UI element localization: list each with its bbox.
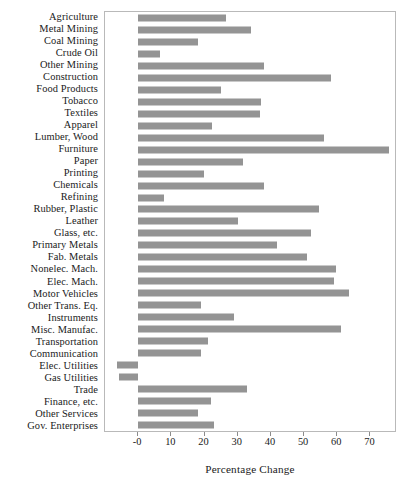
category-label: Furniture — [0, 143, 101, 155]
bar-row — [105, 359, 395, 371]
bar-row — [105, 48, 395, 60]
bar[interactable] — [138, 194, 164, 201]
category-label: Elec. Utilities — [0, 360, 101, 372]
category-label: Trade — [0, 384, 101, 396]
bar-row — [105, 96, 395, 108]
bar-row — [105, 192, 395, 204]
bar-row — [105, 299, 395, 311]
plot-area — [104, 11, 396, 432]
category-label: Nonelec. Mach. — [0, 264, 101, 276]
bar[interactable] — [138, 98, 261, 105]
chart-page: AgricultureMetal MiningCoal MiningCrude … — [0, 0, 408, 486]
bar[interactable] — [138, 170, 204, 177]
category-label: Fab. Metals — [0, 252, 101, 264]
bar-row — [105, 132, 395, 144]
bar-row — [105, 144, 395, 156]
bar[interactable] — [138, 74, 330, 81]
category-label: Agriculture — [0, 11, 101, 23]
bar[interactable] — [117, 362, 138, 369]
bar-row — [105, 36, 395, 48]
bar-row — [105, 156, 395, 168]
bar-row — [105, 407, 395, 419]
category-label: Refining — [0, 191, 101, 203]
bar[interactable] — [138, 218, 238, 225]
category-label: Rubber, Plastic — [0, 204, 101, 216]
bar[interactable] — [138, 266, 336, 273]
bar[interactable] — [138, 122, 212, 129]
bar-row — [105, 204, 395, 216]
bar-row — [105, 24, 395, 36]
category-label: Other Services — [0, 408, 101, 420]
bar-row — [105, 180, 395, 192]
category-label: Other Trans. Eq. — [0, 300, 101, 312]
bar[interactable] — [138, 158, 243, 165]
x-axis-tick-label: -0 — [133, 437, 142, 447]
bar[interactable] — [138, 26, 251, 33]
x-axis-tick-label: 60 — [331, 437, 341, 447]
bar[interactable] — [119, 374, 138, 381]
bar[interactable] — [138, 350, 201, 357]
bar[interactable] — [138, 242, 276, 249]
bar[interactable] — [138, 50, 160, 57]
x-axis-tick-label: 10 — [165, 437, 175, 447]
bar[interactable] — [138, 230, 311, 237]
bar-row — [105, 335, 395, 347]
bar-row — [105, 72, 395, 84]
bar-row — [105, 239, 395, 251]
category-label: Communication — [0, 348, 101, 360]
category-label: Tobacco — [0, 95, 101, 107]
bar-row — [105, 323, 395, 335]
category-label: Gas Utilities — [0, 372, 101, 384]
bar-row — [105, 383, 395, 395]
bar[interactable] — [138, 62, 264, 69]
bar[interactable] — [138, 14, 226, 21]
bar[interactable] — [138, 182, 264, 189]
category-label: Primary Metals — [0, 240, 101, 252]
bar[interactable] — [138, 409, 198, 416]
bar-row — [105, 287, 395, 299]
bar[interactable] — [138, 397, 210, 404]
bar[interactable] — [138, 110, 259, 117]
x-axis-tick-label: 50 — [298, 437, 308, 447]
bar-row — [105, 215, 395, 227]
bar-row — [105, 251, 395, 263]
bar-row — [105, 227, 395, 239]
category-label: Gov. Enterprises — [0, 420, 101, 432]
category-label: Construction — [0, 71, 101, 83]
category-label: Finance, etc. — [0, 396, 101, 408]
bar[interactable] — [138, 38, 198, 45]
bar-row — [105, 347, 395, 359]
bar[interactable] — [138, 421, 214, 428]
category-label: Leather — [0, 216, 101, 228]
category-label: Textiles — [0, 107, 101, 119]
bar[interactable] — [138, 338, 208, 345]
bar[interactable] — [138, 386, 247, 393]
bar[interactable] — [138, 290, 348, 297]
bar[interactable] — [138, 302, 201, 309]
bar-row — [105, 168, 395, 180]
category-label: Printing — [0, 167, 101, 179]
x-axis-tick-label: 30 — [232, 437, 242, 447]
bar-row — [105, 371, 395, 383]
category-label: Other Mining — [0, 59, 101, 71]
bar-row — [105, 60, 395, 72]
bar[interactable] — [138, 326, 340, 333]
bar[interactable] — [138, 86, 221, 93]
bar-row — [105, 263, 395, 275]
bar[interactable] — [138, 206, 319, 213]
x-axis-title: Percentage Change — [104, 463, 396, 475]
bar[interactable] — [138, 278, 334, 285]
bar-row — [105, 120, 395, 132]
bar[interactable] — [138, 314, 234, 321]
bar-row — [105, 311, 395, 323]
bar[interactable] — [138, 146, 389, 153]
category-axis-labels: AgricultureMetal MiningCoal MiningCrude … — [0, 11, 101, 432]
bar-row — [105, 84, 395, 96]
category-label: Chemicals — [0, 179, 101, 191]
bar[interactable] — [138, 134, 324, 141]
x-axis-tick-label: 40 — [265, 437, 275, 447]
bar-row — [105, 275, 395, 287]
bar-row — [105, 419, 395, 431]
category-label: Metal Mining — [0, 23, 101, 35]
bar[interactable] — [138, 254, 307, 261]
